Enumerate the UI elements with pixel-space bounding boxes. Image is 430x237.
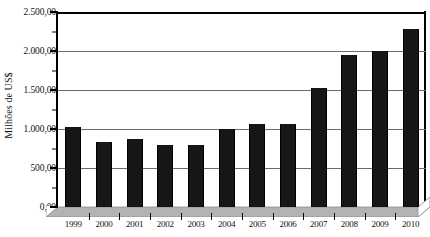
x-tick-label: 2000	[87, 219, 121, 229]
x-tick-label: 1999	[56, 219, 90, 229]
bar	[96, 142, 112, 207]
y-tick-mark-minor	[52, 187, 57, 188]
bar	[341, 55, 357, 207]
y-tick-mark	[50, 128, 58, 130]
y-tick-mark-minor	[52, 70, 57, 71]
bar	[372, 51, 388, 207]
x-tick-separator	[119, 213, 120, 220]
y-tick-mark-minor	[52, 148, 57, 149]
x-tick-separator	[273, 213, 274, 220]
bar	[188, 145, 204, 207]
x-tick-separator	[89, 213, 90, 220]
x-tick-label: 2008	[332, 219, 366, 229]
x-tick-label: 2010	[394, 219, 428, 229]
bars-layer	[58, 12, 426, 207]
x-tick-label: 2002	[148, 219, 182, 229]
x-tick-separator	[395, 213, 396, 220]
x-tick-separator	[365, 213, 366, 220]
y-axis-tick-labels: 0,00500,001.000,001.500,002.000,002.500,…	[8, 0, 56, 237]
y-tick-mark	[50, 89, 58, 91]
x-tick-label: 2001	[118, 219, 152, 229]
x-tick-separator	[242, 213, 243, 220]
y-tick-mark	[50, 167, 58, 169]
bar	[157, 145, 173, 207]
bar	[219, 129, 235, 207]
x-tick-separator	[303, 213, 304, 220]
gridline	[58, 207, 426, 209]
x-tick-label: 2006	[271, 219, 305, 229]
bar	[249, 124, 265, 207]
x-tick-label: 2007	[302, 219, 336, 229]
bar	[280, 124, 296, 207]
bar	[311, 88, 327, 207]
x-tick-separator	[181, 213, 182, 220]
bar	[403, 29, 419, 207]
x-tick-separator	[150, 213, 151, 220]
y-tick-mark-minor	[52, 109, 57, 110]
y-tick-mark-minor	[52, 31, 57, 32]
x-tick-separator	[211, 213, 212, 220]
x-tick-label: 2005	[240, 219, 274, 229]
bar	[127, 139, 143, 207]
x-axis-tick-labels: 1999200020012002200320042005200620072008…	[58, 219, 426, 235]
x-tick-separator	[334, 213, 335, 220]
y-tick-mark	[50, 11, 58, 13]
y-tick-mark	[50, 206, 58, 208]
bar	[65, 127, 81, 207]
x-tick-label: 2009	[363, 219, 397, 229]
bar-chart-figure: Milhões de US$ 0,00500,001.000,001.500,0…	[0, 0, 430, 237]
x-tick-label: 2004	[210, 219, 244, 229]
y-tick-mark	[50, 50, 58, 52]
x-tick-label: 2003	[179, 219, 213, 229]
